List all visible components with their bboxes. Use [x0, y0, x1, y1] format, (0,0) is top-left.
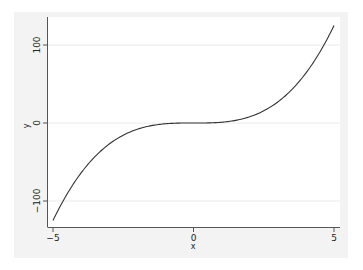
y-tick-label: 100: [32, 36, 42, 53]
y-axis-ticks: −1000100: [32, 36, 48, 213]
x-tick-label: −5: [46, 233, 59, 243]
x-tick-label: 5: [331, 233, 337, 243]
y-axis-title: y: [22, 123, 31, 128]
x-axis-title: x: [191, 242, 196, 251]
plot-region: [48, 17, 340, 227]
y-tick-label: −100: [32, 188, 42, 213]
y-tick-label: 0: [32, 120, 42, 126]
chart: −1000100 −505 x y: [0, 0, 363, 270]
x-axis-ticks: −505: [46, 228, 337, 244]
